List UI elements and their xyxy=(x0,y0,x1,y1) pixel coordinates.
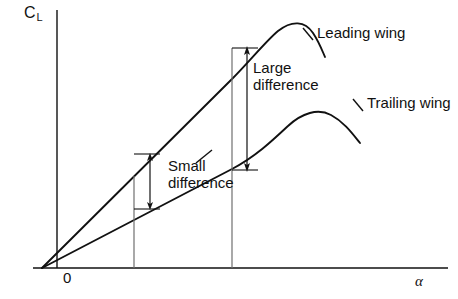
small-difference-label-line2: difference xyxy=(168,174,234,191)
small-difference-label: Smalldifference xyxy=(168,158,234,192)
large-difference-label-line2: difference xyxy=(253,76,319,93)
origin-tick-label: 0 xyxy=(63,270,71,287)
large-difference-label-line1: Large xyxy=(253,59,291,76)
small-difference-label-line1: Small xyxy=(168,157,206,174)
chart-canvas xyxy=(0,0,458,299)
x-axis-label: α xyxy=(415,273,423,290)
lift-curve-figure: CL α 0 Leading wing Trailing wing Larged… xyxy=(0,0,458,299)
y-axis-label: CL xyxy=(24,4,43,23)
y-axis-label-main: C xyxy=(24,4,36,21)
large-difference-label: Largedifference xyxy=(253,60,319,94)
y-axis-label-subscript: L xyxy=(37,11,43,23)
trailing-wing-leader-line xyxy=(353,99,363,111)
leading-wing-label: Leading wing xyxy=(317,25,405,42)
trailing-wing-label: Trailing wing xyxy=(367,95,451,112)
